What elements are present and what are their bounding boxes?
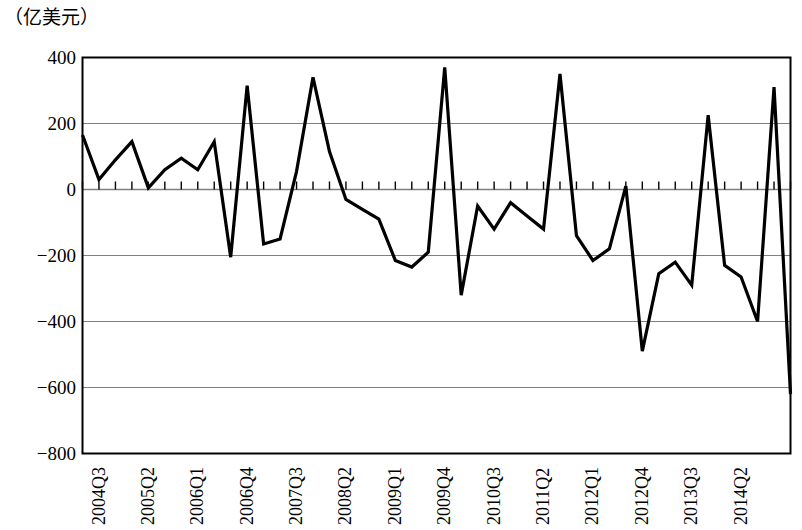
line-chart-plot	[0, 0, 802, 530]
data-series-line	[83, 67, 791, 394]
x-axis-tick-marks	[83, 182, 791, 190]
chart-container: （亿美元） 4002000−200−400−600−800 2004Q32005…	[0, 0, 802, 530]
